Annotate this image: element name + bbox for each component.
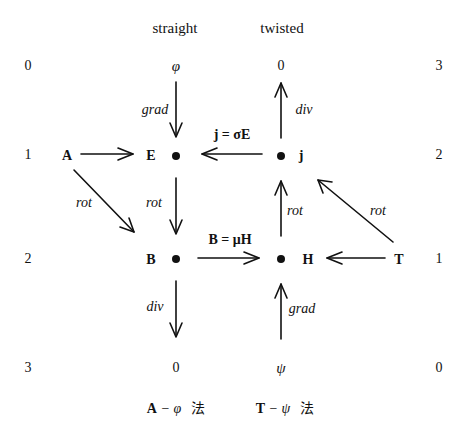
arrow-rot-E-B: [170, 178, 182, 234]
arrow-A-E: [81, 148, 133, 160]
label-B-mu-H: B = μH: [208, 233, 251, 247]
arrow-div-B-zero: [170, 281, 182, 337]
arrow-div-j-zero: [275, 83, 287, 138]
label-rot-T-j: rot: [370, 204, 386, 218]
arrow-grad-phi-E: [170, 82, 182, 137]
method-t-psi: T − ψ法: [256, 401, 315, 416]
label-grad-top: grad: [142, 103, 168, 117]
method-a-phi-han: 法: [191, 400, 205, 416]
label-rot-H-j: rot: [287, 204, 303, 218]
method-a-phi-bold: A: [147, 401, 157, 416]
label-div-top: div: [295, 103, 312, 117]
label-rot-E-B: rot: [146, 196, 162, 210]
arrow-B-H: [198, 252, 259, 264]
label-j-sigma-E: j = σE: [214, 128, 251, 142]
arrows-layer: [0, 0, 463, 434]
label-grad-bottom: grad: [289, 302, 315, 316]
method-t-psi-bold: T: [256, 401, 265, 416]
arrow-grad-psi-H: [275, 284, 287, 339]
arrow-rot-H-j: [275, 181, 287, 236]
method-t-psi-rest: − ψ: [265, 401, 290, 416]
method-t-psi-han: 法: [300, 400, 314, 416]
arrow-j-E: [202, 148, 262, 160]
label-div-bottom: div: [146, 300, 163, 314]
method-a-phi: A − φ法: [147, 401, 205, 416]
arrow-T-H: [327, 252, 385, 264]
label-rot-A-B: rot: [76, 196, 92, 210]
method-a-phi-rest: − φ: [157, 401, 181, 416]
